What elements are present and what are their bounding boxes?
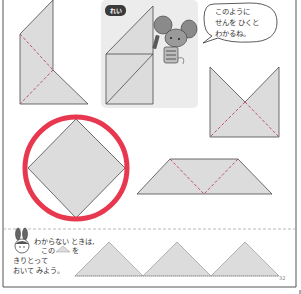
speech-line-2: せんを ひくと <box>215 17 259 28</box>
bowtie-shape[interactable] <box>210 67 279 137</box>
speech-line-3: わかるね。 <box>215 28 259 39</box>
cutout-triangles[interactable] <box>75 242 279 276</box>
hint-line-4: おいて みよう。 <box>13 266 64 276</box>
hint-line-3: きりとって <box>13 256 48 266</box>
trapezoid-shape[interactable] <box>137 159 272 194</box>
speech-bubble-text: このように せんを ひくと わかるね。 <box>215 6 259 39</box>
example-panel <box>101 0 198 108</box>
hint-line-2a: この <box>41 246 55 256</box>
example-badge-label: れい <box>107 6 125 16</box>
rabbit-icon <box>15 228 29 253</box>
speech-line-1: このように <box>215 6 259 17</box>
tall-pentagon-shape[interactable] <box>20 0 88 104</box>
worksheet-page: れい このように せんを ひくと わかるね。 わからない ときは, この を き… <box>0 0 301 294</box>
page-number: 32 <box>279 275 285 281</box>
diamond-answer-shape[interactable] <box>25 117 127 219</box>
hint-line-2b: を <box>72 246 79 256</box>
